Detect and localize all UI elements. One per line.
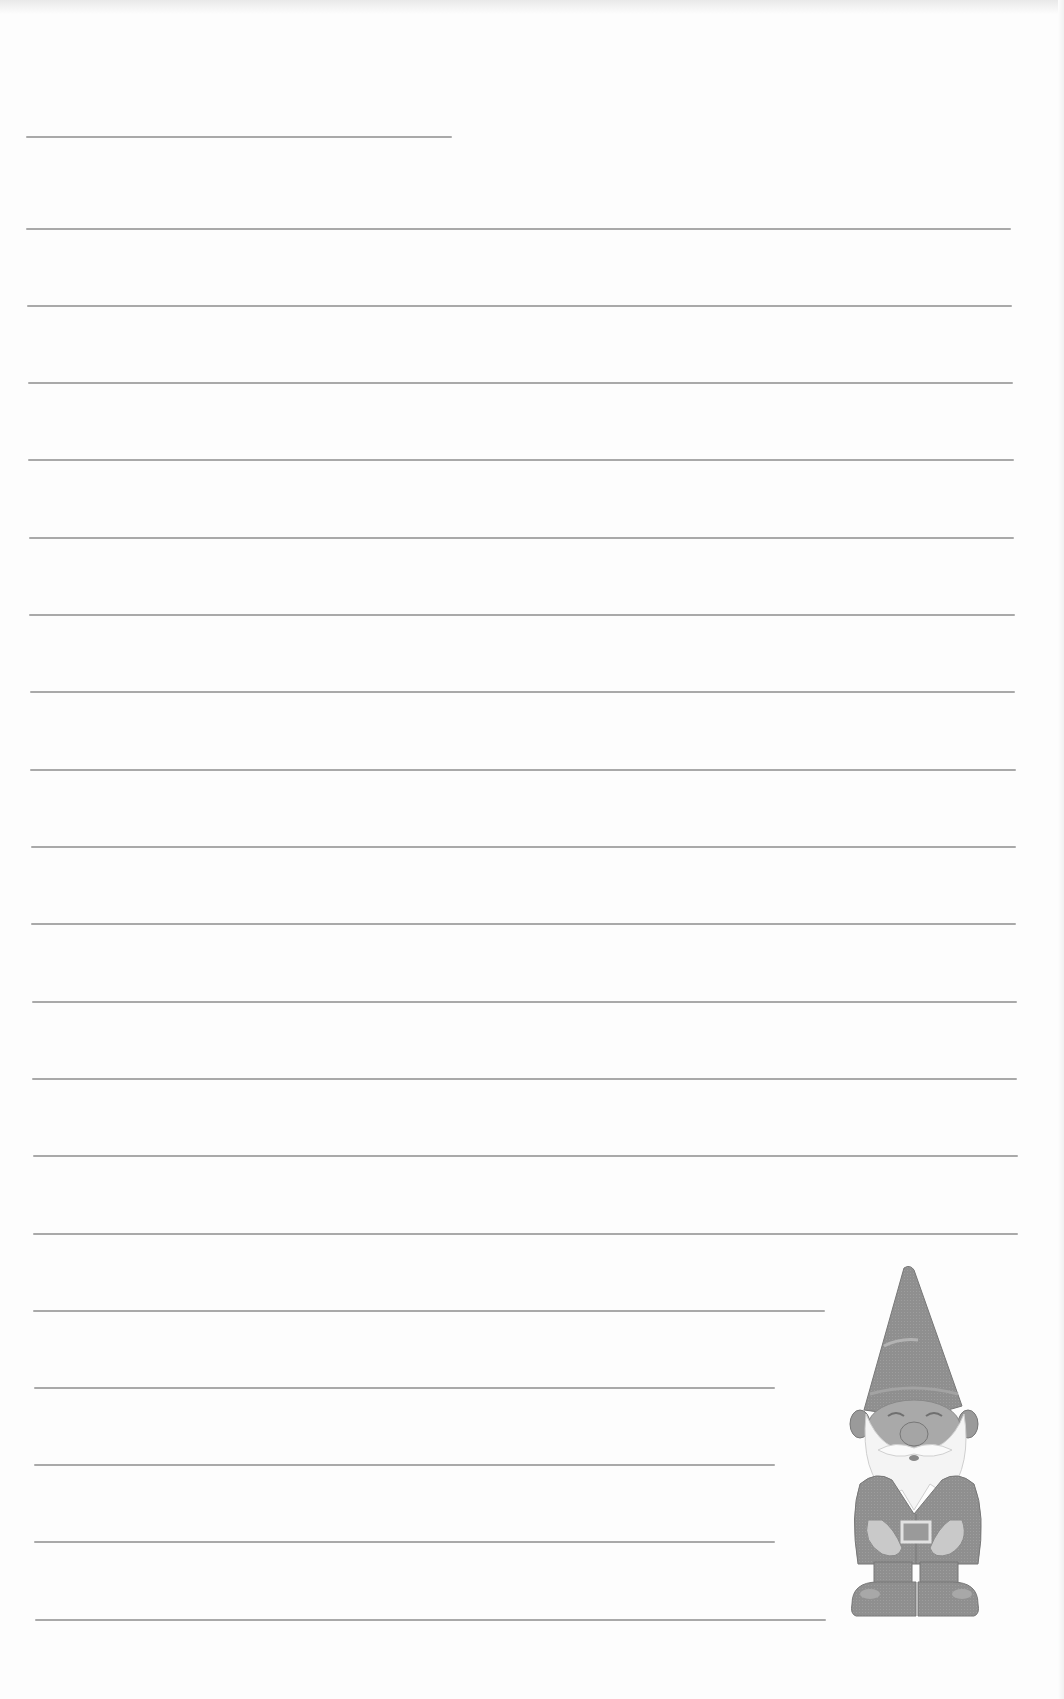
writing-line (34, 1464, 775, 1466)
writing-line (32, 1078, 1017, 1080)
writing-line (32, 1001, 1017, 1003)
name-line (26, 136, 452, 138)
writing-line (33, 1233, 1018, 1235)
writing-line (27, 305, 1012, 307)
writing-line (29, 537, 1014, 539)
writing-line (29, 614, 1015, 616)
writing-line (28, 459, 1014, 461)
writing-line (30, 769, 1016, 771)
writing-line (33, 1155, 1018, 1157)
writing-line (34, 1387, 775, 1389)
gnome-boots (852, 1582, 917, 1616)
scan-top-edge (0, 0, 1064, 14)
scan-right-edge (1058, 0, 1064, 1699)
writing-line (35, 1619, 826, 1621)
writing-line (31, 923, 1016, 925)
writing-line (33, 1310, 825, 1312)
gnome-belt-buckle (902, 1522, 930, 1542)
writing-line (26, 228, 1011, 230)
writing-line (28, 382, 1013, 384)
gnome-illustration (838, 1264, 998, 1624)
writing-line (30, 691, 1015, 693)
writing-line (34, 1541, 775, 1543)
writing-line (31, 846, 1016, 848)
